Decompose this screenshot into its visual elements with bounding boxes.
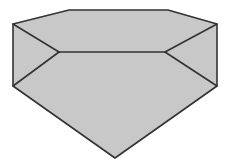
solid-outline (13, 10, 217, 158)
pentagonal-solid-diagram (0, 0, 229, 166)
